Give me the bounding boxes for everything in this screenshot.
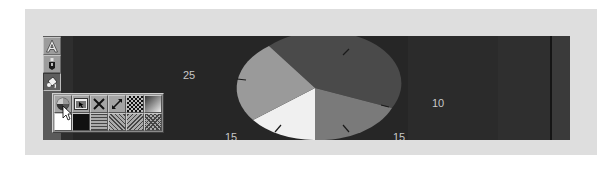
stretch-fill-button[interactable]	[108, 95, 126, 113]
diagonal-up-pattern-button[interactable]	[126, 113, 144, 131]
crosshatch-pattern-button[interactable]	[144, 113, 162, 131]
mouse-pointer-icon	[62, 105, 72, 121]
pie-label: 15	[393, 132, 405, 140]
paint-bucket-icon	[45, 75, 59, 89]
pie-label: 15	[225, 132, 237, 140]
pie-label: 25	[183, 70, 195, 81]
pie-label: 10	[432, 98, 444, 109]
black-fill-button[interactable]	[72, 113, 90, 131]
no-fill-button[interactable]	[90, 95, 108, 113]
pen-nib-icon	[47, 57, 57, 71]
letter-a-icon	[45, 39, 59, 53]
horizontal-lines-pattern-button[interactable]	[90, 113, 108, 131]
fill-tool-button[interactable]	[43, 73, 61, 91]
gradient-fill-button[interactable]	[144, 95, 162, 113]
x-icon	[93, 98, 105, 110]
text-tool-button[interactable]	[43, 37, 61, 55]
vertical-toolbar	[43, 37, 61, 91]
diagonal-arrow-icon	[111, 98, 123, 110]
checker-pattern-button[interactable]	[126, 95, 144, 113]
picture-fill-icon	[74, 98, 88, 110]
diagonal-down-pattern-button[interactable]	[108, 113, 126, 131]
pen-tool-button[interactable]	[43, 55, 61, 73]
image-fill-button[interactable]	[72, 95, 90, 113]
